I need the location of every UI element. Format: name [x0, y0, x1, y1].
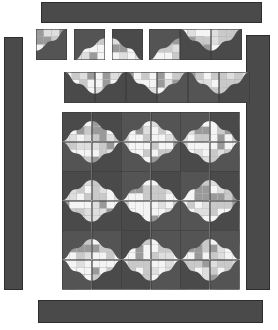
sample-block-top-6[interactable] — [211, 29, 242, 60]
sample-block-top-2[interactable] — [74, 29, 105, 60]
grid-block-r3-c5[interactable] — [180, 171, 210, 201]
grid-block-r3-c6[interactable] — [210, 171, 240, 201]
grid-block-r4-c1[interactable] — [62, 201, 92, 231]
sample-block-top-4[interactable] — [149, 29, 180, 60]
sample-block-strip-2[interactable] — [95, 72, 126, 103]
grid-block-r2-c3[interactable] — [121, 142, 151, 172]
grid-block-r3-c2[interactable] — [92, 171, 122, 201]
grid-block-r1-c1[interactable] — [62, 112, 92, 142]
quilt-layout-canvas — [0, 0, 278, 330]
grid-block-r4-c6[interactable] — [210, 201, 240, 231]
grid-block-r5-c4[interactable] — [151, 230, 181, 260]
sample-block-top-5[interactable] — [180, 29, 211, 60]
grid-block-r6-c1[interactable] — [62, 260, 92, 290]
grid-block-r6-c4[interactable] — [151, 260, 181, 290]
grid-block-r4-c2[interactable] — [92, 201, 122, 231]
grid-block-r2-c2[interactable] — [92, 142, 122, 172]
grid-block-r6-c2[interactable] — [92, 260, 122, 290]
grid-block-r5-c1[interactable] — [62, 230, 92, 260]
sample-block-strip-1[interactable] — [64, 72, 95, 103]
sample-block-strip-5[interactable] — [188, 72, 219, 103]
sample-block-top-1[interactable] — [36, 29, 67, 60]
grid-block-r1-c2[interactable] — [92, 112, 122, 142]
grid-block-r2-c6[interactable] — [210, 142, 240, 172]
grid-block-r1-c3[interactable] — [121, 112, 151, 142]
grid-block-r2-c1[interactable] — [62, 142, 92, 172]
grid-block-r2-c5[interactable] — [180, 142, 210, 172]
grid-block-r5-c5[interactable] — [180, 230, 210, 260]
grid-block-r3-c4[interactable] — [151, 171, 181, 201]
grid-block-r3-c1[interactable] — [62, 171, 92, 201]
sample-block-top-3[interactable] — [112, 29, 143, 60]
bottom-border-strip[interactable] — [38, 300, 263, 323]
grid-block-r4-c4[interactable] — [151, 201, 181, 231]
sample-block-strip-3[interactable] — [126, 72, 157, 103]
grid-block-r1-c5[interactable] — [180, 112, 210, 142]
top-border-strip[interactable] — [41, 2, 262, 23]
grid-block-r6-c6[interactable] — [210, 260, 240, 290]
sample-block-strip-6[interactable] — [219, 72, 250, 103]
grid-block-r2-c4[interactable] — [151, 142, 181, 172]
grid-block-r5-c3[interactable] — [121, 230, 151, 260]
grid-block-r3-c3[interactable] — [121, 171, 151, 201]
grid-block-r6-c3[interactable] — [121, 260, 151, 290]
grid-block-r4-c5[interactable] — [180, 201, 210, 231]
grid-block-r5-c6[interactable] — [210, 230, 240, 260]
sample-block-strip-4[interactable] — [157, 72, 188, 103]
grid-block-r6-c5[interactable] — [180, 260, 210, 290]
grid-block-r1-c4[interactable] — [151, 112, 181, 142]
grid-block-r5-c2[interactable] — [92, 230, 122, 260]
grid-block-r4-c3[interactable] — [121, 201, 151, 231]
left-border-strip[interactable] — [4, 37, 23, 290]
grid-block-r1-c6[interactable] — [210, 112, 240, 142]
